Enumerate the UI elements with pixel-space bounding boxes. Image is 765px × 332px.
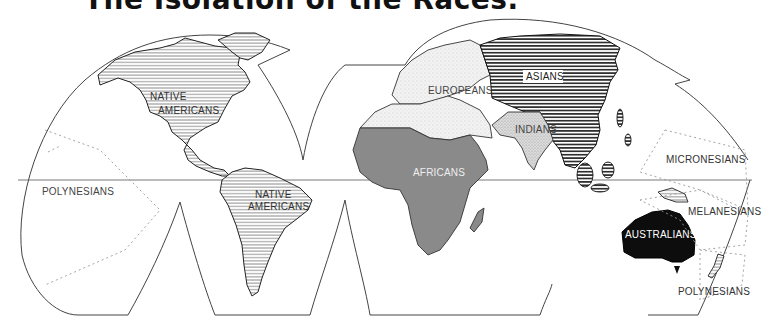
new-guinea [658,188,688,202]
madagascar [470,208,484,232]
india [492,112,553,170]
tasmania [674,266,680,274]
label-australians: AUSTRALIANS [625,229,697,240]
south-america [220,168,312,296]
world-map: NATIVE AMERICANS NATIVE AMERICANS EUROPE… [0,0,765,332]
africa [353,128,488,255]
label-polynesians-east: POLYNESIANS [678,286,750,297]
label-asians: ASIANS [526,71,564,82]
label-africans: AFRICANS [413,167,465,178]
label-native-americans-north-2: AMERICANS [158,105,219,116]
label-native-americans-north-1: NATIVE [150,91,187,102]
label-polynesians-west: POLYNESIANS [42,186,114,197]
label-europeans: EUROPEANS [428,85,493,96]
label-native-americans-south-2: AMERICANS [248,201,309,212]
label-melanesians: MELANESIANS [688,206,761,217]
label-indians: INDIANS [515,124,557,135]
asia [480,34,620,168]
label-native-americans-south-1: NATIVE [255,189,292,200]
label-micronesians: MICRONESIANS [666,154,746,165]
